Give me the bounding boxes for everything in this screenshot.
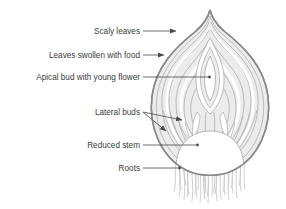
bulb-body-group [151,10,268,176]
label-lateral-buds: Lateral buds [95,108,140,117]
bulb-diagram-svg: Scaly leaves Leaves swollen with food Ap… [0,0,286,209]
label-apical-bud-with-young-flower: Apical bud with young flower [36,73,140,82]
label-leaves-swollen-with-food: Leaves swollen with food [49,51,140,60]
label-scaly-leaves: Scaly leaves [94,27,140,36]
label-reduced-stem: Reduced stem [87,141,140,150]
leader-dot-roots [178,167,181,170]
labels-group: Scaly leaves Leaves swollen with food Ap… [36,27,140,173]
label-roots: Roots [119,164,140,173]
leader-dot-reduced-stem [196,144,199,147]
diagram-canvas: Scaly leaves Leaves swollen with food Ap… [0,0,286,209]
leader-dot-apical-bud [208,76,211,79]
